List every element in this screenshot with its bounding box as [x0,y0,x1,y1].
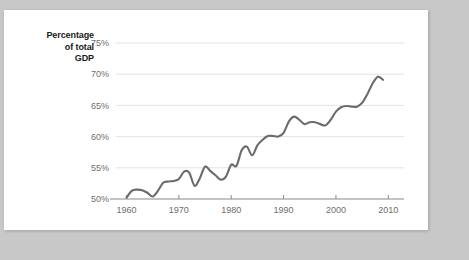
y-tick-label-55%: 55% [91,163,109,173]
chart-card: Percentage of total GDP 75%70%65%60%55%5… [4,10,428,230]
y-axis-tick-labels: 75%70%65%60%55%50% [91,38,109,204]
x-tick-label-1990: 1990 [274,205,294,215]
plot-svg: 75%70%65%60%55%50% 196019701980199020002… [4,10,428,230]
y-tick-label-60%: 60% [91,132,109,142]
y-tick-label-50%: 50% [91,194,109,204]
x-tick-label-2010: 2010 [378,205,398,215]
x-tick-label-1970: 1970 [169,205,189,215]
y-tick-label-65%: 65% [91,101,109,111]
data-series-line [126,77,383,198]
y-tick-label-70%: 70% [91,69,109,79]
x-tick-label-2000: 2000 [326,205,346,215]
gdp-percentage-line-chart: Percentage of total GDP 75%70%65%60%55%5… [4,10,428,230]
x-axis-tick-labels: 196019701980199020002010 [116,205,398,215]
x-tick-label-1980: 1980 [221,205,241,215]
y-tick-label-75%: 75% [91,38,109,48]
x-tick-label-1960: 1960 [116,205,136,215]
